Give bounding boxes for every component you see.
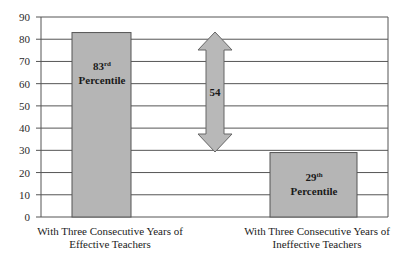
bar1-word: Percentile xyxy=(79,74,126,86)
category2-line1: With Three Consecutive Years of xyxy=(244,225,390,237)
y-tick-label: 30 xyxy=(4,144,30,156)
category-label-effective: With Three Consecutive Years of Effectiv… xyxy=(30,225,190,251)
bar1-number: 83 xyxy=(93,60,104,72)
category2-line2: Ineffective Teachers xyxy=(273,238,362,250)
bar2-value-label: 29th Percentile xyxy=(270,170,358,198)
category1-line1: With Three Consecutive Years of xyxy=(37,225,183,237)
y-tick-label: 0 xyxy=(4,211,30,223)
chart-canvas xyxy=(0,0,413,263)
y-tick-label: 70 xyxy=(4,55,30,67)
difference-label: 54 xyxy=(200,86,230,98)
bar2-word: Percentile xyxy=(291,185,338,197)
bar2-suffix: th xyxy=(316,171,322,179)
y-tick-label: 50 xyxy=(4,100,30,112)
category-label-ineffective: With Three Consecutive Years of Ineffect… xyxy=(232,225,402,251)
y-tick-label: 80 xyxy=(4,33,30,45)
bar-chart: 0102030405060708090 83rd Percentile 29th… xyxy=(0,0,413,263)
y-tick-label: 40 xyxy=(4,122,30,134)
y-tick-label: 20 xyxy=(4,167,30,179)
y-tick-label: 90 xyxy=(4,11,30,23)
bar2-number: 29 xyxy=(305,171,316,183)
y-tick-label: 60 xyxy=(4,78,30,90)
category1-line2: Effective Teachers xyxy=(69,238,151,250)
bar1-value-label: 83rd Percentile xyxy=(72,59,132,87)
bar1-suffix: rd xyxy=(104,60,111,68)
y-tick-label: 10 xyxy=(4,189,30,201)
